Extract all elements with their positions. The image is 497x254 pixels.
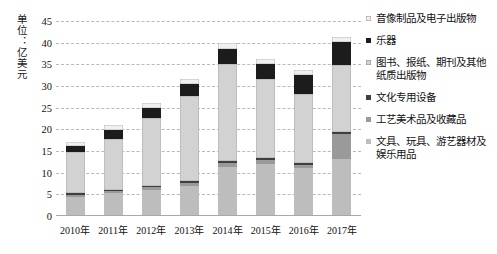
x-axis-tick-label: 2017年 [327,222,357,237]
bar-segment [142,108,161,118]
y-axis-tick-label: 30 [12,81,52,92]
y-axis-tick-label: 5 [12,189,52,200]
bar-group [66,142,85,216]
y-axis-tick-label: 10 [12,167,52,178]
y-axis-tick-label: 0 [12,211,52,222]
x-axis-tick-label: 2014年 [213,222,243,237]
legend-item[interactable]: 图书、报纸、期刊及其他纸质出版物 [366,56,494,82]
bar-group [332,37,351,216]
bar-series-layer [56,21,361,216]
bar-segment [180,96,199,181]
bar-segment [104,139,123,190]
legend-label: 文具、玩具、游艺器材及娱乐用品 [376,135,494,161]
legend-label: 文化专用设备 [376,91,436,104]
bar-group [294,70,313,216]
legend-item[interactable]: 文化专用设备 [366,91,494,104]
legend-label: 乐器 [376,34,396,47]
x-axis-tick-label: 2011年 [98,222,128,237]
bar-group [142,103,161,216]
legend-item[interactable]: 文具、玩具、游艺器材及娱乐用品 [366,135,494,161]
bar-segment [66,152,85,193]
y-axis-tick-label: 35 [12,59,52,70]
chart-legend: 音像制品及电子出版物乐器图书、报纸、期刊及其他纸质出版物文化专用设备工艺美术品及… [366,12,494,170]
bar-segment [218,64,237,161]
bar-segment [104,193,123,216]
bar-segment [218,49,237,65]
x-axis-line [56,215,361,216]
legend-label: 图书、报纸、期刊及其他纸质出版物 [376,56,494,82]
y-axis-tick-label: 25 [12,102,52,113]
plot-area [56,21,361,216]
x-axis-tick-label: 2012年 [136,222,166,237]
x-axis-tick-label: 2016年 [289,222,319,237]
bar-segment [256,79,275,158]
legend-color-swatch [366,60,371,65]
bar-segment [66,197,85,217]
legend-label: 音像制品及电子出版物 [376,12,476,25]
bar-group [256,59,275,216]
y-axis-tick-labels: 051015202530354045 [6,21,52,216]
y-axis-tick-label: 20 [12,124,52,135]
x-axis-tick-label: 2010年 [60,222,90,237]
bar-segment [180,84,199,96]
bar-segment [294,168,313,216]
bar-segment [332,65,351,132]
legend-item[interactable]: 音像制品及电子出版物 [366,12,494,25]
legend-color-swatch [366,95,371,100]
legend-item[interactable]: 工艺美术品及收藏品 [366,113,494,126]
y-axis-tick-label: 40 [12,37,52,48]
stacked-bar-chart: 单位：亿美元 051015202530354045 2010年2011年2012… [0,0,497,254]
y-axis-tick-label: 45 [12,16,52,27]
legend-color-swatch [366,139,371,144]
bar-segment [104,130,123,139]
bar-group [104,125,123,216]
bar-group [180,79,199,216]
x-axis-tick-label: 2013年 [174,222,204,237]
bar-segment [256,64,275,79]
bar-segment [294,75,313,94]
x-axis-tick-label: 2015年 [251,222,281,237]
bar-segment [332,159,351,216]
legend-color-swatch [366,16,371,21]
legend-color-swatch [366,38,371,43]
bar-segment [332,134,351,159]
bar-segment [142,118,161,186]
bar-segment [256,164,275,216]
legend-color-swatch [366,117,371,122]
legend-label: 工艺美术品及收藏品 [376,113,466,126]
bar-segment [332,42,351,65]
legend-item[interactable]: 乐器 [366,34,494,47]
bar-segment [218,167,237,216]
x-axis-tick-labels: 2010年2011年2012年2013年2014年2015年2016年2017年 [56,219,361,241]
bar-segment [142,190,161,216]
bar-group [218,43,237,216]
bar-segment [294,94,313,163]
y-axis-tick-label: 15 [12,146,52,157]
bar-segment [180,186,199,216]
